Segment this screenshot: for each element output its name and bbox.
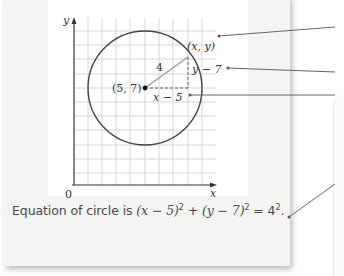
caption-term1: (x − 5) [136, 203, 178, 218]
horizontal-leg-label: x − 5 [153, 91, 182, 104]
vertical-leg-label: y − 7 [191, 63, 221, 76]
caption-term2: (y − 7) [202, 203, 245, 218]
y-axis-label: y [62, 14, 70, 27]
point-label: (x, y) [187, 40, 215, 53]
caption-plus: + [184, 203, 202, 218]
caption-eq: = 4 [249, 203, 275, 218]
x-axis-label: x [210, 187, 217, 200]
caption-suffix: . [280, 203, 284, 218]
radius-line [145, 57, 188, 88]
caption-prefix: Equation of circle is [12, 203, 136, 218]
origin-label: 0 [65, 188, 72, 201]
radius-label: 4 [156, 61, 163, 74]
center-label: (5, 7) [112, 82, 142, 95]
equation-caption: Equation of circle is (x − 5)2 + (y − 7)… [12, 203, 284, 218]
center-dot [143, 86, 148, 91]
